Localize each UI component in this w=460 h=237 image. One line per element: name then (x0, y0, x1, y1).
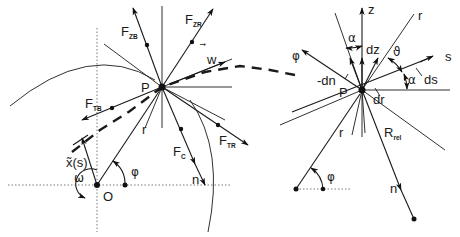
label-velocity-w: w (206, 52, 217, 67)
label-f-c: FC (173, 144, 186, 160)
line-lower-left (280, 90, 362, 125)
label-alpha-top: α (348, 31, 356, 45)
phi-reference-dot (123, 183, 128, 188)
phi-reference-dot-right (321, 187, 326, 192)
line-p-lower-right (162, 87, 225, 120)
label-alpha-right: α (408, 73, 416, 87)
label-f-zr: FZR (185, 12, 202, 28)
label-dz: dz (366, 42, 380, 57)
point-p-dot (159, 84, 166, 91)
force-zb-dot (145, 43, 149, 47)
label-z: z (368, 2, 375, 17)
line-lower-short (352, 90, 362, 135)
normal-n-line (401, 190, 414, 219)
label-theta: ϑ (393, 45, 400, 59)
curvature-center-dot (412, 217, 417, 222)
label-r-axis: r (418, 8, 423, 23)
label-point-p: P (141, 80, 150, 95)
right-diagram: z r s φ dz -dn ds dr α ϑ α P r Rrel n φ (280, 2, 452, 222)
label-omega: ω (74, 171, 84, 185)
force-tr-dot (216, 123, 220, 127)
point-p-dot-right (359, 87, 366, 94)
label-origin-o: O (103, 189, 113, 204)
label-normal-n: n (192, 172, 199, 187)
phi-arc-left (113, 161, 125, 185)
s-axis-arrow (420, 56, 433, 62)
label-dn: -dn (317, 73, 336, 88)
trajectory-arc-upper (10, 65, 155, 106)
radius-vector (97, 90, 160, 185)
label-dr: dr (373, 92, 385, 107)
label-f-tb: FTB (85, 96, 102, 112)
label-radius-r: r (142, 122, 147, 137)
force-zr-dot (190, 40, 194, 44)
label-phi-axis: φ (292, 49, 300, 63)
origin-dot (94, 182, 100, 188)
label-phi-left: φ (131, 165, 139, 179)
label-r-rel: Rrel (384, 125, 402, 141)
phi-arc-right (311, 168, 323, 189)
label-radius-r-right: r (339, 125, 344, 140)
label-phi-right: φ (327, 170, 335, 184)
force-tb-dot (110, 106, 114, 110)
dz-tilted-arrow (350, 58, 362, 90)
origin-dot-right (294, 187, 299, 192)
force-c-dot (179, 127, 183, 131)
label-s: s (445, 49, 452, 64)
figure: FZB FZR FTB FTR FC P r n w ⃗ x̃(s) ω φ O (0, 0, 460, 237)
alpha-arc-right (404, 74, 407, 89)
ds-tick (416, 68, 422, 76)
dr-up-arrow (362, 58, 378, 90)
vector-accent: ⃗ (199, 43, 206, 46)
label-normal-n-right: n (390, 181, 397, 196)
force-zb-arrow (133, 8, 162, 87)
alpha-arc-top (346, 46, 362, 48)
left-diagram: FZB FZR FTB FTR FC P r n w ⃗ x̃(s) ω φ O (8, 6, 295, 232)
label-f-zb: FZB (121, 24, 138, 40)
label-path-x: x̃(s) (66, 155, 88, 170)
dn-tick (345, 74, 348, 79)
label-ds: ds (424, 72, 438, 87)
label-point-p-right: P (339, 85, 348, 100)
